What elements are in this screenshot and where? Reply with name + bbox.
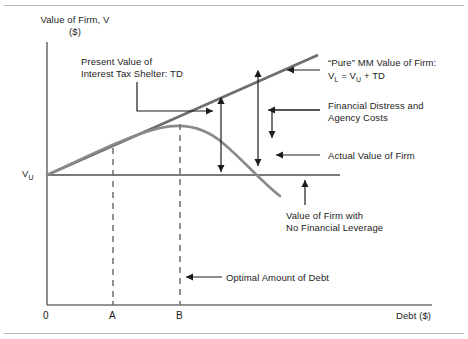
- vu-axis-label: VU: [22, 168, 34, 183]
- annotation-pure-mm-line1: “Pure” MM Value of Firm:: [328, 57, 436, 69]
- y-axis-title-line2: ($): [10, 26, 140, 38]
- annotation-no-leverage-line1: Value of Firm with: [286, 210, 363, 222]
- pure-mm-equals: =: [338, 70, 349, 81]
- annotation-financial-distress-line2: Agency Costs: [328, 112, 388, 124]
- x-axis-tick-b-label: B: [176, 310, 183, 322]
- x-axis-origin-label: 0: [43, 310, 49, 322]
- x-axis-tick-a-label: A: [109, 310, 116, 322]
- firm-value-capital-structure-diagram: Value of Firm, V ($) VU 0 A B Debt ($) P…: [0, 0, 468, 339]
- y-axis-title-line1: Value of Firm, V: [10, 14, 140, 26]
- diagram-canvas: [0, 0, 468, 339]
- vu-axis-label-subscript: U: [28, 174, 33, 181]
- annotation-present-value-line2: Interest Tax Shelter: TD: [81, 68, 183, 80]
- annotation-financial-distress-line1: Financial Distress and: [328, 100, 424, 112]
- x-axis-title: Debt ($): [396, 310, 431, 322]
- annotation-pure-mm-line2: VL = VU + TD: [328, 70, 385, 85]
- annotation-present-value-line1: Present Value of: [81, 56, 152, 68]
- annotation-actual-value: Actual Value of Firm: [328, 150, 415, 162]
- pure-mm-plus-td: + TD: [361, 70, 385, 81]
- annotation-optimal-debt: Optimal Amount of Debt: [226, 272, 329, 284]
- annotation-no-leverage-line2: No Financial Leverage: [286, 222, 383, 234]
- financial-distress-leader-line: [272, 110, 320, 138]
